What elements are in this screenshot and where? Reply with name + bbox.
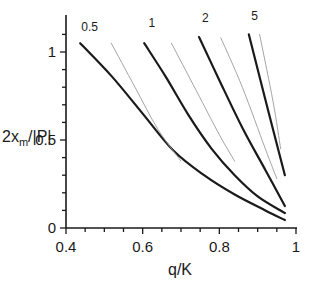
x-tick-label: 0.6 bbox=[132, 238, 153, 255]
series-line-1 bbox=[111, 43, 181, 161]
curve-labels: 0.5125 bbox=[81, 9, 258, 34]
curve-label: 5 bbox=[251, 9, 258, 23]
y-tick-label: 0 bbox=[48, 219, 56, 236]
line-chart: 0.40.60.8100.51 0.5125 q/K 2xm/|P| bbox=[0, 0, 320, 297]
x-axis-label: q/K bbox=[168, 261, 192, 278]
x-tick-label: 0.4 bbox=[56, 238, 77, 255]
y-tick-label: 1 bbox=[48, 43, 56, 60]
x-tick-label: 0.8 bbox=[209, 238, 230, 255]
y-axis-label-subscript: m bbox=[19, 136, 28, 148]
curve-label: 2 bbox=[202, 11, 209, 25]
y-axis-label-tail: /|P| bbox=[28, 128, 51, 145]
curve-label: 0.5 bbox=[81, 20, 98, 34]
curve-label: 1 bbox=[148, 16, 155, 30]
curves bbox=[80, 34, 285, 220]
x-tick-label: 1 bbox=[292, 238, 300, 255]
y-axis-label-main: 2x bbox=[2, 128, 19, 145]
